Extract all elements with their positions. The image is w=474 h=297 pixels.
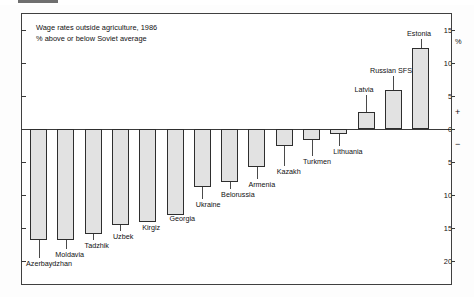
bar-estonia: [412, 48, 429, 129]
left-tick-7: [21, 261, 26, 262]
bar-ukraine: [194, 129, 211, 187]
left-tick-4: [21, 162, 26, 163]
bar-label-moldavia: Moldavia: [55, 250, 84, 259]
ytick-label-5-2: 5: [436, 92, 452, 101]
left-tick-3: [21, 129, 26, 130]
bar-label-lithuania: Lithuania: [333, 147, 362, 156]
bar-label-belorussia: Belorussia: [221, 190, 255, 199]
ytick-label-15-6: 15: [436, 224, 452, 233]
leader-line-azerbaydzhan: [39, 240, 40, 258]
leader-line-latvia: [366, 95, 367, 112]
ytick-label-10-1: 10: [436, 59, 452, 68]
bar-georgia: [167, 129, 184, 215]
chart-title-line-1: Wage rates outside agriculture, 1986: [36, 23, 157, 34]
bar-label-kazakh: Kazakh: [277, 167, 301, 176]
bar-armenia: [248, 129, 265, 167]
leader-line-tadzhik: [93, 234, 94, 240]
bar-azerbaydzhan: [30, 129, 47, 240]
bar-label-latvia: Latvia: [354, 85, 373, 94]
bar-label-armenia: Armenia: [248, 180, 275, 189]
ytick-label-10-5: 10: [436, 191, 452, 200]
right-axis-line: [451, 13, 452, 285]
left-tick-1: [21, 63, 26, 64]
ytick-label-5-4: 5: [436, 158, 452, 167]
leader-line-lithuania: [339, 134, 340, 146]
bar-label-tadzhik: Tadzhik: [85, 241, 109, 250]
ytick-label-20-7: 20: [436, 257, 452, 266]
leader-line-uzbek: [120, 225, 121, 231]
bar-kazakh: [276, 129, 293, 146]
leader-line-russian-sfsr: [393, 76, 394, 90]
leader-line-turkmen: [312, 140, 313, 156]
bar-latvia: [358, 112, 375, 129]
chart-figure: Wage rates outside agriculture, 1986 % a…: [0, 0, 474, 297]
leader-line-moldavia: [66, 240, 67, 249]
bar-belorussia: [221, 129, 238, 182]
leader-line-estonia: [421, 39, 422, 48]
bar-label-georgia: Georgia: [170, 214, 196, 223]
left-tick-2: [21, 96, 26, 97]
bar-label-turkmen: Turkmen: [303, 157, 331, 166]
bar-moldavia: [57, 129, 74, 240]
bar-kirgiz: [139, 129, 156, 222]
leader-line-kazakh: [284, 146, 285, 166]
bar-label-ukraine: Ukraine: [196, 200, 221, 209]
leader-line-belorussia: [230, 182, 231, 189]
chart-title-line-2: % above or below Soviet average: [36, 34, 147, 45]
bar-russian-sfsr: [385, 90, 402, 129]
ytick-label-0-3: 0: [436, 125, 452, 134]
plot-area: Wage rates outside agriculture, 1986 % a…: [0, 0, 474, 297]
bar-label-uzbek: Uzbek: [113, 232, 133, 241]
left-tick-6: [21, 228, 26, 229]
bar-uzbek: [112, 129, 129, 225]
unit-symbol: %: [455, 37, 462, 46]
plus-symbol: +: [455, 107, 460, 117]
bar-tadzhik: [85, 129, 102, 234]
leader-line-armenia: [257, 167, 258, 179]
bar-label-kirgiz: Kirgiz: [142, 223, 160, 232]
ytick-label-15-0: 15: [436, 26, 452, 35]
bar-label-azerbaydzhan: Azerbaydzhan: [26, 259, 72, 268]
bar-turkmen: [303, 129, 320, 140]
left-tick-0: [21, 30, 26, 31]
bar-label-russian-sfsr: Russian SFSR: [370, 66, 417, 75]
bar-label-estonia: Estonia: [407, 29, 431, 38]
minus-symbol: −: [455, 139, 460, 149]
left-tick-5: [21, 195, 26, 196]
leader-line-ukraine: [202, 187, 203, 199]
